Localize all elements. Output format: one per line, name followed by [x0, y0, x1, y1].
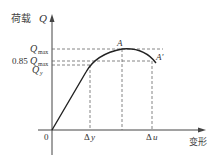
y-axis-label-cn: 荷载: [11, 13, 31, 24]
y-tick-085qmax: 0.85 Q max: [12, 55, 48, 67]
y-tick-qmax: Q max: [30, 43, 48, 55]
x-axis-arrow-icon: [198, 128, 206, 133]
x-tick-delta-y: Δ y: [84, 132, 95, 142]
origin-label: 0: [44, 132, 49, 142]
svg-text:Δ: Δ: [146, 132, 152, 142]
x-tick-delta-u: Δ u: [146, 132, 158, 142]
y-axis-label-sym: Q: [39, 12, 47, 24]
svg-text:y: y: [39, 70, 43, 76]
diagram-svg: 荷载 Q Q max 0.85 Q max Q y 0 Δ y Δ u 变形 A…: [0, 0, 222, 155]
svg-text:max: max: [38, 49, 48, 55]
svg-text:0.85: 0.85: [12, 56, 28, 66]
load-deformation-diagram: 荷载 Q Q max 0.85 Q max Q y 0 Δ y Δ u 变形 A…: [0, 0, 222, 155]
point-a-prime-label: A′: [155, 52, 164, 62]
point-a-label: A: [116, 38, 123, 48]
svg-text:Q: Q: [30, 43, 38, 54]
svg-text:y: y: [90, 132, 95, 142]
svg-text:max: max: [38, 61, 48, 67]
svg-text:u: u: [153, 132, 158, 142]
svg-text:Q: Q: [32, 64, 40, 75]
svg-text:Δ: Δ: [84, 132, 90, 142]
x-axis-label: 变形: [189, 136, 207, 147]
guide-lines: [52, 49, 163, 130]
y-axis-arrow-icon: [50, 14, 55, 22]
